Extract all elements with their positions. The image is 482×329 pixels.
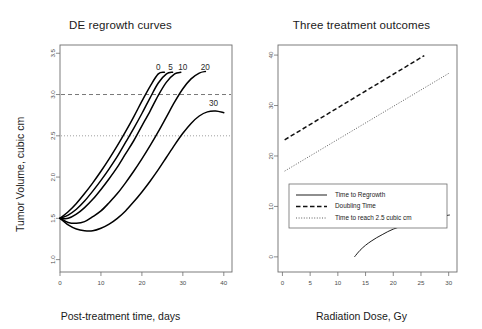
left-x-tick-label: 10 <box>98 279 105 286</box>
right-y-tick-label: 20 <box>267 152 274 159</box>
left-x-tick-label: 20 <box>138 279 145 286</box>
curve-label-dose-30: 30 <box>209 99 219 108</box>
left-y-tick-label: 2.0 <box>49 172 56 181</box>
right-plot-frame <box>278 45 457 272</box>
legend-label: Doubling Time <box>335 202 376 210</box>
left-x-tick-label: 40 <box>220 279 227 286</box>
left-x-tick-label: 30 <box>179 279 186 286</box>
right-y-tick-label: 0 <box>267 255 274 259</box>
panel-three-treatment-outcomes: Three treatment outcomes Radiation Dose,… <box>241 0 482 329</box>
right-x-tick-label: 20 <box>390 279 397 286</box>
left-x-tick-label: 0 <box>58 279 62 286</box>
right-x-tick-label: 5 <box>308 279 312 286</box>
right-y-tick-label: 30 <box>267 102 274 109</box>
left-y-tick-label: 2.5 <box>49 131 56 140</box>
right-x-tick-label: 10 <box>334 279 341 286</box>
left-y-tick-label: 1.0 <box>49 255 56 264</box>
right-x-tick-label: 15 <box>362 279 369 286</box>
curve-label-dose-20: 20 <box>201 63 211 72</box>
legend-label: Time to reach 2.5 cubic cm <box>335 214 411 221</box>
curve-label-dose-0: 0 <box>156 63 161 72</box>
left-plot-frame <box>60 45 232 272</box>
right-y-tick-label: 10 <box>267 202 274 209</box>
outcome-line-doubling-time <box>285 56 425 140</box>
right-y-tick-label: 40 <box>267 51 274 58</box>
right-x-tick-label: 30 <box>445 279 452 286</box>
left-y-tick-label: 3.5 <box>49 48 56 57</box>
outcome-line-time-to-reach-2-5-cubic-cm <box>285 73 450 171</box>
curve-label-dose-10: 10 <box>178 63 188 72</box>
right-x-tick-label: 0 <box>281 279 285 286</box>
left-y-tick-label: 1.5 <box>49 213 56 222</box>
curve-label-dose-5: 5 <box>168 63 173 72</box>
left-plot-svg: 1.01.52.02.53.03.501020304005102030 <box>0 0 241 329</box>
right-x-tick-label: 25 <box>418 279 425 286</box>
figure-canvas: DE regrowth curves Post-treatment time, … <box>0 0 482 329</box>
legend-label: Time to Regrowth <box>335 191 386 199</box>
panel-de-regrowth-curves: DE regrowth curves Post-treatment time, … <box>0 0 241 329</box>
right-plot-svg: 010203040051015202530Time to RegrowthDou… <box>241 0 482 329</box>
regrowth-curve-dose-30 <box>60 111 224 231</box>
left-y-tick-label: 3.0 <box>49 90 56 99</box>
